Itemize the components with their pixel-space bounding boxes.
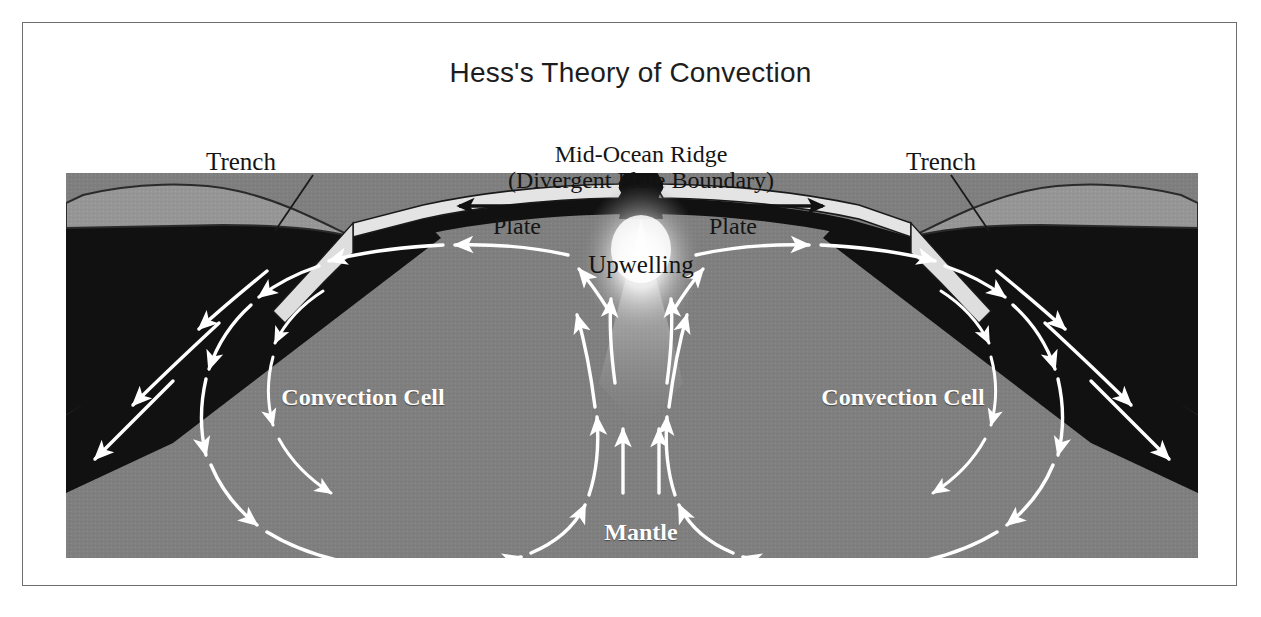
- figure-frame: Hess's Theory of Convection: [22, 22, 1237, 586]
- label-convection-cell-right: Convection Cell: [821, 384, 984, 411]
- label-trench-right: Trench: [906, 148, 976, 176]
- label-upwelling: Upwelling: [588, 251, 694, 279]
- label-mantle: Mantle: [604, 519, 677, 546]
- convection-diagram: [23, 23, 1238, 587]
- label-convection-cell-left: Convection Cell: [281, 384, 444, 411]
- figure-page: Hess's Theory of Convection: [0, 0, 1261, 617]
- label-plate-right: Plate: [709, 213, 757, 240]
- label-mid-ocean-ridge: Mid-Ocean Ridge: [555, 141, 728, 168]
- label-divergent-plate-boundary: (Divergent Plate Boundary): [508, 167, 774, 194]
- label-trench-left: Trench: [206, 148, 276, 176]
- label-plate-left: Plate: [493, 213, 541, 240]
